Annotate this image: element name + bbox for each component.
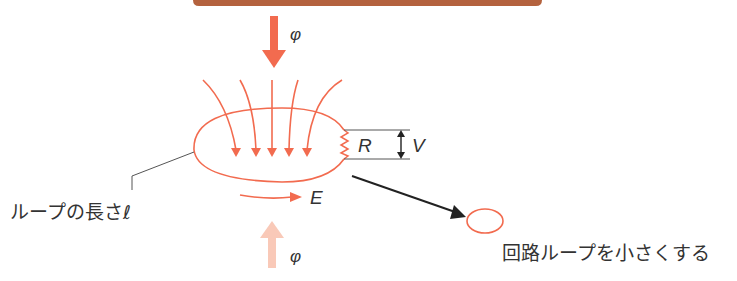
arrowhead [284, 148, 294, 157]
field-line [289, 80, 298, 150]
resistor-label: R [358, 135, 372, 156]
arrowhead [302, 148, 312, 157]
loop-induction-diagram: φ R V E ループの長さℓ φ [0, 0, 737, 281]
circuit-loop [194, 108, 344, 182]
arrowhead [231, 148, 241, 157]
emf-arrowhead [290, 192, 302, 202]
field-line [203, 80, 236, 150]
flux-out-arrow [260, 221, 284, 268]
loop-length-leader [132, 152, 194, 190]
voltage-label: V [412, 135, 427, 156]
reduce-loop-label: 回路ループを小さくする [502, 242, 710, 264]
flux-in-label: φ [290, 25, 301, 44]
emf-label: E [310, 187, 323, 208]
field-line-arrowheads [231, 148, 312, 157]
voltage-arrow [397, 130, 405, 159]
field-source-bar [193, 0, 542, 6]
resistor-symbol [341, 130, 348, 159]
flux-in-arrow [262, 16, 286, 68]
arrowhead [251, 148, 261, 157]
arrowhead [267, 148, 277, 157]
reduce-pointer-head [450, 205, 466, 219]
reduce-pointer-line [352, 176, 458, 213]
small-loop [467, 209, 503, 233]
flux-out-label: φ [290, 247, 301, 266]
field-line [240, 80, 256, 150]
loop-length-label: ループの長さℓ [10, 201, 131, 223]
emf-arrow [240, 195, 292, 198]
